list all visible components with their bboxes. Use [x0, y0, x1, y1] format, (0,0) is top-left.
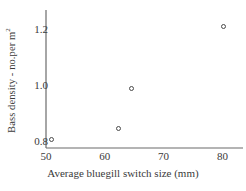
x-tick-label: 80: [207, 151, 237, 162]
y-axis-title-text: Bass density - no.per m: [6, 31, 17, 132]
y-axis-title-container: Bass density - no.per m2: [0, 0, 22, 160]
x-axis-title: Average bluegill switch size (mm): [0, 167, 246, 179]
y-axis-title: Bass density - no.per m2: [6, 28, 17, 133]
data-point-marker: [221, 24, 226, 29]
scatter-plot-figure: Bass density - no.per m2 0.8 1.0 1.2 50 …: [0, 0, 246, 191]
data-point-marker: [49, 137, 54, 142]
x-tick-label: 70: [149, 151, 179, 162]
data-point-marker: [116, 126, 121, 131]
x-tick-label: 60: [90, 151, 120, 162]
x-tick-label: 50: [31, 151, 61, 162]
y-tick-label: 1.0: [22, 80, 48, 91]
plot-area: [46, 10, 243, 148]
data-point-marker: [129, 86, 134, 91]
y-tick-label: 0.8: [22, 136, 48, 147]
y-tick-label: 1.2: [22, 24, 48, 35]
y-axis-title-superscript: 2: [4, 28, 12, 32]
